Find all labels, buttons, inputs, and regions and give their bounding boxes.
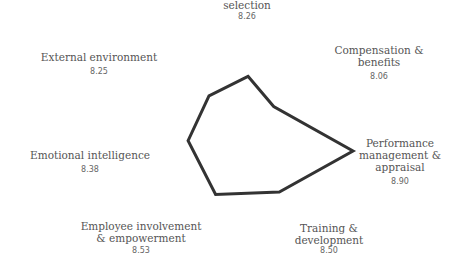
axis-label-recruitment: selection 8.26 [223, 0, 271, 22]
axis-value: 8.06 [334, 72, 423, 82]
axis-label-compensation: Compensation & benefits 8.06 [334, 44, 423, 82]
axis-label-emotional-intelligence: Emotional intelligence 8.38 [30, 149, 150, 175]
axis-value: 8.26 [223, 12, 271, 22]
axis-value: 8.25 [41, 67, 157, 77]
radar-chart: selection 8.26 Compensation & benefits 8… [0, 0, 456, 255]
series-polygon [188, 76, 353, 194]
axis-value: 8.90 [359, 177, 441, 187]
axis-label-external-environment: External environment 8.25 [41, 51, 157, 77]
axis-value: 8.53 [81, 246, 202, 255]
axis-label-training: Training & development 8.50 [295, 222, 364, 255]
axis-value: 8.38 [30, 165, 150, 175]
axis-label-performance: Performance management & appraisal 8.90 [359, 137, 441, 187]
radar-plot [0, 0, 456, 255]
axis-value: 8.50 [295, 246, 364, 255]
axis-label-employee-involvement: Employee involvement & empowerment 8.53 [81, 220, 202, 255]
